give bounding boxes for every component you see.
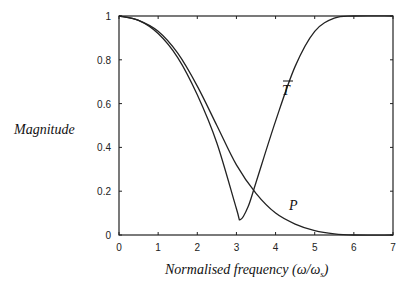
svg-text:4: 4 bbox=[273, 242, 279, 253]
curve-t-bar bbox=[119, 16, 393, 220]
svg-text:7: 7 bbox=[390, 242, 396, 253]
svg-text:2: 2 bbox=[195, 242, 201, 253]
svg-text:0.6: 0.6 bbox=[97, 99, 111, 110]
svg-text:0: 0 bbox=[105, 230, 111, 241]
svg-text:0.2: 0.2 bbox=[97, 186, 111, 197]
y-axis-label: Magnitude bbox=[13, 122, 75, 137]
svg-text:0.8: 0.8 bbox=[97, 55, 111, 66]
svg-text:1: 1 bbox=[155, 242, 161, 253]
svg-text:6: 6 bbox=[351, 242, 357, 253]
svg-text:0: 0 bbox=[116, 242, 122, 253]
curve-p bbox=[119, 16, 393, 235]
svg-text:T: T bbox=[282, 83, 291, 98]
axis-ticks: 0123456700.20.40.60.81 bbox=[97, 11, 396, 253]
svg-text:3: 3 bbox=[234, 242, 240, 253]
x-axis-label: Normalised frequency (ω/ωs) bbox=[164, 262, 329, 279]
p-label: P bbox=[288, 198, 298, 213]
curves bbox=[119, 16, 393, 235]
t-bar-label: T bbox=[282, 81, 293, 98]
magnitude-chart: 0123456700.20.40.60.81 Magnitude Normali… bbox=[0, 0, 416, 295]
svg-text:0.4: 0.4 bbox=[97, 142, 111, 153]
svg-text:5: 5 bbox=[312, 242, 318, 253]
plot-frame bbox=[119, 16, 393, 235]
svg-text:1: 1 bbox=[105, 11, 111, 22]
